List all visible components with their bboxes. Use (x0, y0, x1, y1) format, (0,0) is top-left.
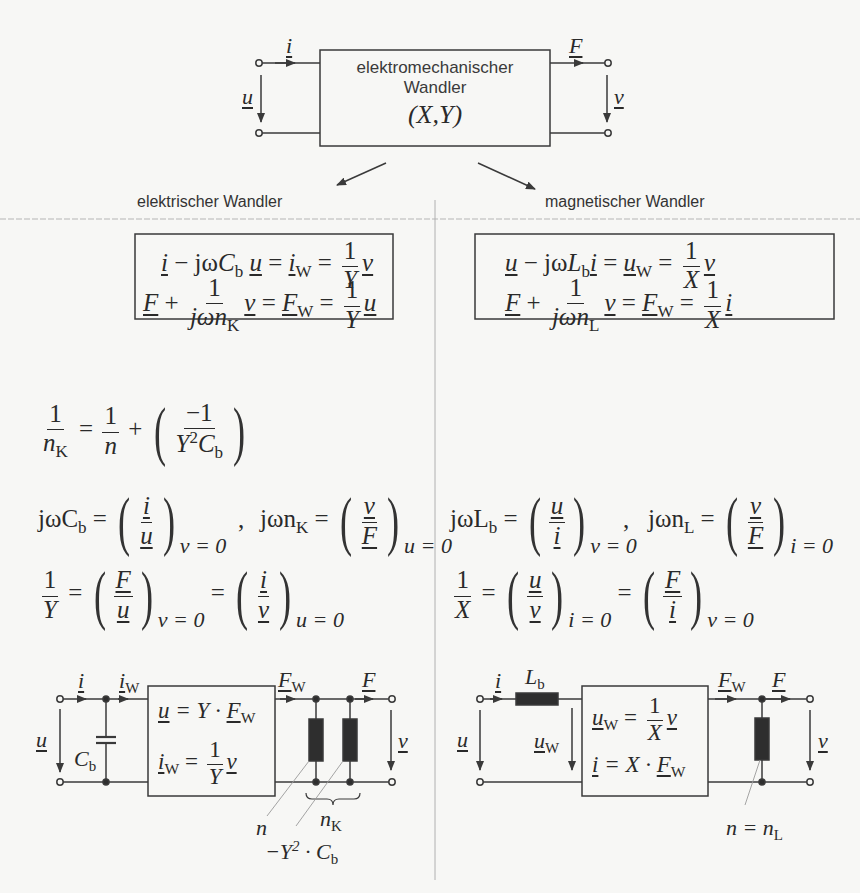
terminal-icon (477, 779, 483, 785)
eq-comma-right: , (623, 506, 629, 534)
lc-box-eq2: iW = 1Yv (158, 738, 237, 789)
eq-jwCb: jωCb = (iu)v = 0 (38, 488, 226, 559)
rc-label-u: u (457, 727, 468, 753)
inductor-icon (516, 693, 558, 705)
junction-icon (347, 779, 353, 785)
terminal-icon (57, 696, 63, 702)
eq-jwLb: jωLb = (ui)v = 0 (450, 488, 637, 559)
lc-label-F: F (362, 667, 375, 693)
rc-label-Lb: Lb (525, 664, 545, 693)
terminal-icon (256, 130, 262, 136)
junction-icon (313, 779, 319, 785)
terminal-icon (807, 696, 813, 702)
rc-label-i: i (495, 668, 501, 694)
terminal-icon (389, 779, 395, 785)
lc-label-negY2Cb: −Y2 · Cb (265, 838, 338, 868)
rc-label-uW: uW (534, 728, 559, 757)
arrow-to-electric-icon (337, 163, 386, 185)
rc-box-eq2: ii = X · F = X · FW (592, 752, 686, 781)
junction-icon (347, 696, 353, 702)
eq-X: 1X = (uv)i = 0 = (Fi)v = 0 (450, 562, 754, 633)
junction-icon (759, 696, 765, 702)
eq-jwnL: jωnL = (vF)i = 0 (648, 488, 833, 559)
brace-icon (306, 793, 360, 805)
eq-nK: 1nK = 1n + (−1Y2Cb) (38, 398, 250, 464)
terminal-icon (807, 779, 813, 785)
top-label-u: u (242, 84, 253, 110)
lc-label-FW: FW (278, 667, 306, 696)
top-label-v: v (614, 84, 624, 110)
lc-label-nK: nK (320, 806, 342, 835)
junction-icon (103, 696, 109, 702)
heading-magnetic-transducer: magnetischer Wandler (545, 193, 704, 211)
top-box-title: elektromechanischer Wandler (320, 58, 550, 98)
eq-Y: 1Y = (Fu)v = 0 = (iv)u = 0 (38, 562, 344, 633)
lc-label-iW: iW (119, 668, 139, 697)
compliance-nL-icon (755, 718, 769, 760)
lc-box-eq1: uu = Y · F = Y · FW (158, 698, 255, 727)
rc-label-v: v (818, 728, 828, 754)
terminal-icon (477, 696, 483, 702)
eq-comma-left: , (238, 506, 244, 534)
terminal-icon (389, 696, 395, 702)
arrow-to-magnetic-icon (478, 163, 535, 189)
top-label-i: i (286, 33, 292, 59)
left-box-eq2: F + 1jωnKv = FW = 1Yu (143, 275, 376, 335)
junction-icon (759, 779, 765, 785)
top-box-params: (X,Y) (320, 100, 550, 130)
lc-label-v: v (398, 728, 408, 754)
compliance-n-icon (309, 719, 323, 761)
junction-icon (103, 779, 109, 785)
lc-label-i: i (78, 668, 84, 694)
terminal-icon (605, 60, 611, 66)
top-box-title-line2: Wandler (320, 78, 550, 98)
eq-jwnK: jωnK = (vF)u = 0 (260, 488, 452, 559)
heading-electric-transducer: elektrischer Wandler (137, 193, 282, 211)
top-label-F: F (569, 33, 582, 59)
rc-label-FW: FW (718, 667, 746, 696)
terminal-icon (57, 779, 63, 785)
rc-label-n-eq-nL: n = nL (726, 815, 783, 844)
rc-label-F: F (772, 667, 785, 693)
compliance-negative-icon (343, 719, 357, 761)
top-box-title-line1: elektromechanischer (320, 58, 550, 78)
lc-label-u: u (36, 727, 47, 753)
lc-label-Cb: Cb (74, 746, 96, 775)
right-box-eq2: F + 1jωnLv = FW = 1Xi (505, 275, 732, 335)
terminal-icon (605, 130, 611, 136)
terminal-icon (256, 60, 262, 66)
junction-icon (313, 696, 319, 702)
rc-box-eq1: uW = 1Xv (592, 694, 677, 745)
